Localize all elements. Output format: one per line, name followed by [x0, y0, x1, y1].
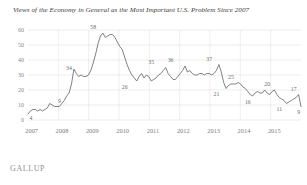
point-label-58-27: 58: [90, 24, 96, 30]
point-label-17-110: 17: [291, 86, 297, 92]
y-tick-20: 20: [18, 87, 24, 93]
point-label-4-0: 4: [30, 115, 33, 121]
y-tick-30: 30: [18, 72, 24, 78]
x-tick-2012: 2012: [177, 127, 190, 134]
point-label-25-84: 25: [228, 74, 234, 80]
point-label-35-51: 35: [148, 59, 154, 65]
chart-title: Views of the Economy in General as the M…: [13, 6, 298, 15]
point-label-11-104: 11: [276, 106, 282, 112]
x-tick-2014: 2014: [238, 127, 252, 134]
horizontal-gridlines: [28, 30, 301, 120]
point-label-37-75: 37: [206, 56, 212, 62]
y-tick-40: 40: [18, 57, 24, 63]
x-tick-2007: 2007: [25, 127, 39, 134]
point-label-26-40: 26: [122, 84, 128, 90]
data-point-labels: 493458263536372125162011179: [30, 24, 301, 121]
point-label-16-91: 16: [245, 99, 251, 105]
point-label-9-112: 9: [297, 109, 300, 115]
point-label-34-19: 34: [66, 65, 72, 71]
y-tick-10: 10: [18, 102, 24, 108]
point-label-20-99: 20: [264, 81, 270, 87]
x-tick-2008: 2008: [56, 127, 69, 134]
chart-page: Views of the Economy in General as the M…: [0, 0, 307, 185]
x-tick-2010: 2010: [116, 127, 129, 134]
y-tick-60: 60: [18, 27, 24, 33]
x-axis-tick-labels: 200720082009201020112012201320142015: [25, 127, 280, 134]
x-tick-2013: 2013: [207, 127, 220, 134]
point-label-9-13: 9: [58, 98, 61, 104]
y-tick-0: 0: [21, 117, 24, 123]
line-chart-svg: 0102030405060 20072008200920102011201220…: [0, 18, 307, 148]
plot-area: 0102030405060 20072008200920102011201220…: [0, 18, 307, 148]
point-label-21-78: 21: [214, 91, 220, 97]
x-tick-2011: 2011: [147, 127, 160, 134]
y-tick-50: 50: [18, 42, 24, 48]
x-tick-2015: 2015: [268, 127, 281, 134]
gallup-brand-logo: GALLUP: [10, 164, 45, 173]
y-axis-tick-labels: 0102030405060: [18, 27, 24, 123]
point-label-36-59: 36: [168, 57, 174, 63]
x-tick-2009: 2009: [86, 127, 99, 134]
